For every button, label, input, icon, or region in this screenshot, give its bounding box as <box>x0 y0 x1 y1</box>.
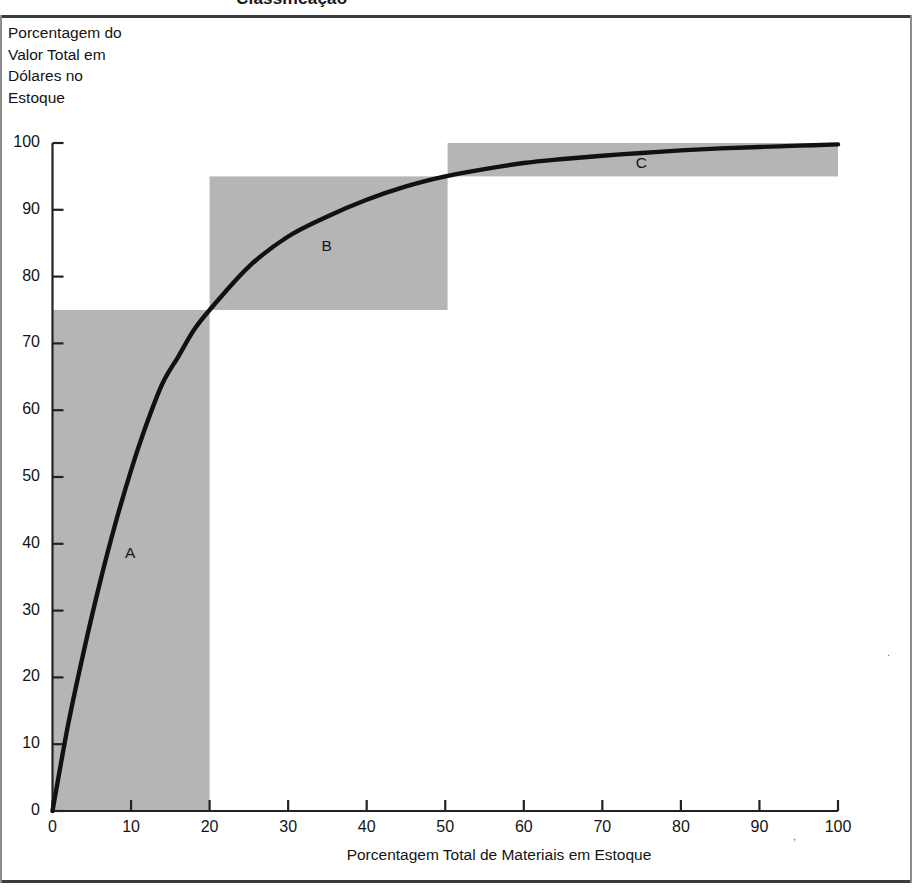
figure-container: Classificação Porcentagem do Valor Total… <box>0 0 912 892</box>
y-tick-label-70: 70 <box>0 333 40 351</box>
scan-artifact-mark: , <box>793 830 796 842</box>
y-tick-label-100: 100 <box>0 133 40 151</box>
x-tick-label-50: 50 <box>422 818 468 836</box>
x-axis-title-text: Porcentagem Total de Materiais em Estoqu… <box>347 846 652 863</box>
band-letter-c: C <box>636 154 647 172</box>
band-letter-b: B <box>321 237 331 255</box>
x-tick-label-0: 0 <box>30 818 76 836</box>
x-tick-label-30: 30 <box>265 818 311 836</box>
band-letter-a: A <box>125 544 135 562</box>
y-tick-label-60: 60 <box>0 400 40 418</box>
x-tick-label-100: 100 <box>815 818 861 836</box>
y-tick-label-0: 0 <box>0 801 40 819</box>
x-axis-title: Porcentagem Total de Materiais em Estoqu… <box>0 846 912 864</box>
x-tick-label-40: 40 <box>344 818 390 836</box>
y-tick-label-10: 10 <box>0 734 40 752</box>
x-tick-label-20: 20 <box>187 818 233 836</box>
x-tick-label-10: 10 <box>108 818 154 836</box>
scan-artifact-mark-2: . <box>887 646 890 658</box>
chart-svg <box>0 0 912 892</box>
y-tick-label-20: 20 <box>0 667 40 685</box>
plot-area <box>0 0 912 892</box>
y-tick-label-30: 30 <box>0 601 40 619</box>
x-tick-label-60: 60 <box>501 818 547 836</box>
x-tick-label-90: 90 <box>736 818 782 836</box>
band-rectangles-layer <box>53 143 839 811</box>
x-tick-label-70: 70 <box>579 818 625 836</box>
y-tick-label-80: 80 <box>0 267 40 285</box>
y-tick-label-50: 50 <box>0 467 40 485</box>
y-tick-label-40: 40 <box>0 534 40 552</box>
x-tick-label-80: 80 <box>658 818 704 836</box>
y-tick-label-90: 90 <box>0 200 40 218</box>
